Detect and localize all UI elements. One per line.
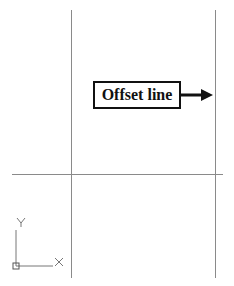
- ucs-icon: [0, 0, 234, 286]
